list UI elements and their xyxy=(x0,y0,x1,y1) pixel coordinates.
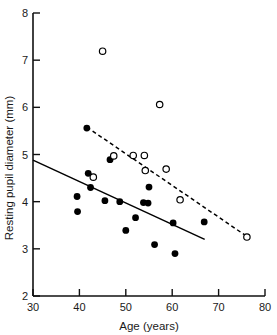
data-point-filled xyxy=(87,184,94,191)
x-tick-label: 60 xyxy=(166,301,178,313)
y-tick-label: 6 xyxy=(22,101,28,113)
axes xyxy=(33,13,265,296)
data-point-filled xyxy=(83,125,90,132)
scatter-plot-figure: 2345678 304050607080 Age (years) Resting… xyxy=(0,0,277,335)
x-tick-label: 80 xyxy=(259,301,271,313)
data-point-filled xyxy=(146,184,153,191)
x-tick-label: 30 xyxy=(27,301,39,313)
x-axis-ticks: 304050607080 xyxy=(27,289,271,313)
data-point-filled xyxy=(151,241,158,248)
y-tick-label: 4 xyxy=(22,196,28,208)
data-point-filled xyxy=(145,200,152,207)
data-point-filled xyxy=(201,219,208,226)
data-point-open xyxy=(141,152,147,158)
y-tick-label: 7 xyxy=(22,54,28,66)
y-tick-label: 8 xyxy=(22,7,28,19)
data-point-filled xyxy=(170,219,177,226)
data-point-open xyxy=(142,167,148,173)
data-points-group xyxy=(74,48,250,257)
x-tick-label: 40 xyxy=(73,301,85,313)
x-axis-title: Age (years) xyxy=(119,320,179,332)
y-axis-title: Resting pupil diameter (mm) xyxy=(3,96,15,241)
data-point-filled xyxy=(74,208,81,215)
y-tick-label: 3 xyxy=(22,243,28,255)
y-axis-ticks: 2345678 xyxy=(22,7,40,302)
plot-canvas: 2345678 304050607080 Age (years) Resting… xyxy=(0,0,277,335)
data-point-filled xyxy=(132,214,139,221)
data-point-open xyxy=(156,101,162,107)
data-point-open xyxy=(99,48,105,54)
y-tick-label: 5 xyxy=(22,149,28,161)
data-point-open xyxy=(177,197,183,203)
data-point-open xyxy=(130,152,136,158)
data-point-open xyxy=(244,234,250,240)
data-point-open xyxy=(90,174,96,180)
trend-lines-group xyxy=(33,127,248,239)
data-point-filled xyxy=(116,198,123,205)
data-point-filled xyxy=(172,250,179,257)
x-tick-label: 70 xyxy=(212,301,224,313)
data-point-filled xyxy=(122,227,129,234)
data-point-filled xyxy=(74,193,81,200)
x-tick-label: 50 xyxy=(120,301,132,313)
data-point-filled xyxy=(102,197,109,204)
dashed-regression-line xyxy=(87,127,248,237)
data-point-open xyxy=(111,153,117,159)
data-point-open xyxy=(163,166,169,172)
